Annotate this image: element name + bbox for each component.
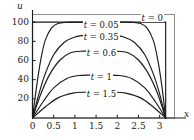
- curve-label-value: 1.5: [103, 89, 117, 99]
- y-tick-label: 80: [0, 37, 29, 46]
- curve-label-t-0: t = 0: [141, 14, 164, 23]
- curve-label-value: 0.35: [100, 32, 119, 42]
- curve-label-value: 0.05: [100, 20, 119, 30]
- curve-label-t-1-5: t = 1.5: [86, 90, 117, 99]
- y-tick-label: 60: [0, 56, 29, 65]
- curve-label-equals: =: [87, 32, 100, 42]
- curve-label-equals: =: [87, 20, 100, 30]
- curve-label-equals: =: [94, 72, 107, 82]
- y-tick-label: 40: [0, 75, 29, 84]
- curve-label-t-0-6: t = 0.6: [86, 49, 117, 58]
- curve-t-0-6: [33, 51, 166, 118]
- curve-label-equals: =: [90, 89, 103, 99]
- plot-frame: [33, 15, 175, 119]
- curve-label-equals: =: [145, 13, 158, 23]
- heat-equation-plot-figure: 20406080100 00.511.522.53 t = 0t = 0.05t…: [0, 0, 194, 140]
- curve-label-value: 0.6: [103, 48, 117, 58]
- curve-label-equals: =: [90, 48, 103, 58]
- curve-label-value: 1: [107, 72, 112, 82]
- y-axis-label: u: [17, 2, 23, 11]
- frame-border: [33, 15, 175, 119]
- curve-label-t-0-35: t = 0.35: [83, 33, 120, 42]
- curve-label-t-0-05: t = 0.05: [83, 21, 120, 30]
- x-tick-label: 3: [146, 122, 174, 131]
- curve-label-t-1: t = 1: [90, 73, 113, 82]
- x-axis-label: x: [184, 110, 189, 119]
- curve-label-value: 0: [157, 13, 162, 23]
- y-tick-label: 100: [0, 18, 29, 27]
- y-tick-label: 20: [0, 94, 29, 103]
